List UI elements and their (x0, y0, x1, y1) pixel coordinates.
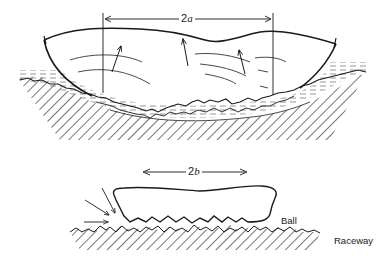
ball-contact-outline (113, 186, 276, 223)
ball-label: Ball (281, 216, 297, 226)
diagram-svg (0, 0, 387, 267)
raceway-label: Raceway (334, 236, 373, 246)
figure-canvas: 2a 2b Ball Raceway (0, 0, 387, 267)
bottom-panel (70, 169, 320, 250)
dimension-label-2b: 2b (186, 166, 202, 177)
dimension-variable: b (194, 165, 200, 177)
inlet-flow-arrows (84, 188, 115, 222)
dimension-label-2a: 2a (179, 13, 195, 24)
arrow-icon (85, 200, 109, 215)
dimension-variable: a (187, 12, 193, 24)
